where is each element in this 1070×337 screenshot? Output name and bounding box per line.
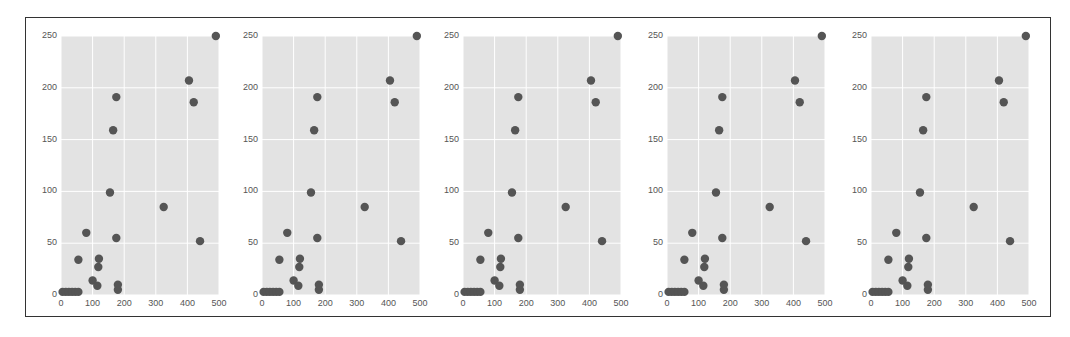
data-point: [903, 281, 911, 289]
x-tick-label: 200: [922, 298, 946, 308]
plot-area: [871, 36, 1029, 295]
y-tick-label: 0: [843, 289, 867, 299]
scatter-panel-5: 0100200300400500050100150200250: [26, 18, 1050, 318]
data-point: [884, 288, 892, 296]
data-point: [916, 188, 924, 196]
data-point: [884, 256, 892, 264]
y-tick-label: 100: [843, 185, 867, 195]
data-point: [922, 234, 930, 242]
figure-frame: 0100200300400500050100150200250010020030…: [25, 17, 1051, 317]
data-point: [995, 76, 1003, 84]
data-point: [919, 126, 927, 134]
data-point: [1022, 32, 1030, 40]
data-point: [922, 93, 930, 101]
y-tick-label: 200: [843, 82, 867, 92]
x-tick-label: 500: [1017, 298, 1041, 308]
y-tick-label: 50: [843, 237, 867, 247]
data-point: [924, 280, 932, 288]
data-point: [970, 203, 978, 211]
y-tick-label: 150: [843, 134, 867, 144]
x-tick-label: 100: [891, 298, 915, 308]
scatter-svg: [871, 36, 1029, 295]
data-point: [1006, 237, 1014, 245]
data-point: [905, 255, 913, 263]
data-point: [1000, 98, 1008, 106]
y-tick-label: 250: [843, 30, 867, 40]
x-tick-label: 400: [985, 298, 1009, 308]
x-tick-label: 0: [859, 298, 883, 308]
data-point: [904, 263, 912, 271]
x-tick-label: 300: [954, 298, 978, 308]
data-point: [892, 229, 900, 237]
